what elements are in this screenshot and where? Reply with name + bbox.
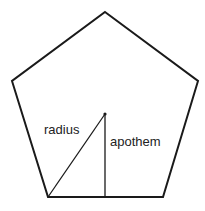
pentagon-diagram: radius apothem: [0, 0, 205, 211]
center-point: [103, 112, 106, 115]
radius-label: radius: [44, 122, 80, 137]
apothem-label: apothem: [110, 134, 161, 149]
